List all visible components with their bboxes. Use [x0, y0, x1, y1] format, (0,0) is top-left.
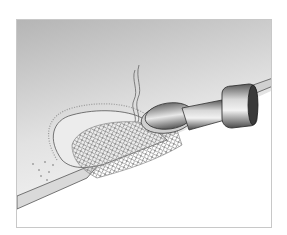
illustration-frame: [16, 19, 272, 228]
soldering-illustration: [17, 20, 272, 228]
